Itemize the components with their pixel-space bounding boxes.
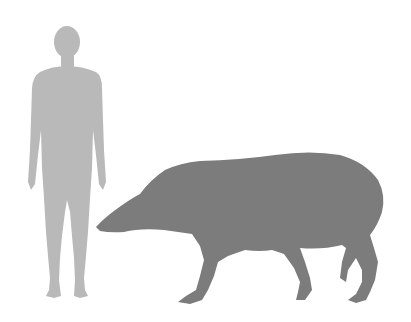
size-comparison-figure [0, 0, 411, 322]
human-silhouette [28, 26, 106, 298]
silhouette-canvas [0, 0, 411, 322]
tapir-silhouette [96, 153, 383, 305]
